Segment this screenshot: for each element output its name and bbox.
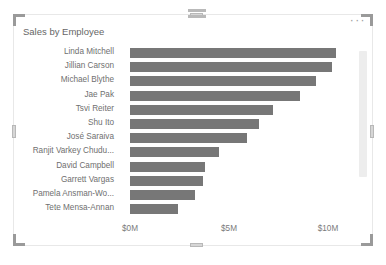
category-label: Jae Pak	[84, 90, 114, 100]
bar[interactable]	[130, 91, 300, 101]
bar[interactable]	[130, 133, 247, 143]
drag-grip-icon[interactable]	[188, 9, 206, 19]
category-label: Ranjit Varkey Chudu...	[33, 146, 114, 156]
bar[interactable]	[130, 76, 316, 86]
resize-handle-right[interactable]	[370, 125, 374, 138]
resize-corner-bottom-right[interactable]	[361, 234, 373, 246]
bar[interactable]	[130, 48, 336, 58]
value-axis: $0M$5M$10M	[118, 220, 358, 242]
category-axis: Linda MitchellJillian CarsonMichael Blyt…	[14, 44, 118, 220]
drag-grip-bar	[188, 15, 206, 18]
bar[interactable]	[130, 62, 332, 72]
category-label: David Campbell	[56, 161, 114, 171]
bar[interactable]	[130, 147, 219, 157]
category-label: José Saraiva	[67, 132, 114, 142]
drag-grip-bar	[188, 9, 206, 12]
bar[interactable]	[130, 204, 178, 214]
vertical-scrollbar-thumb[interactable]	[359, 51, 367, 177]
bar[interactable]	[130, 162, 205, 172]
category-label: Shu Ito	[88, 118, 114, 128]
chart-title: Sales by Employee	[23, 26, 104, 37]
value-axis-tick-label: $10M	[318, 224, 338, 233]
category-label: Tete Mensa-Annan	[45, 203, 114, 213]
resize-corner-top-left[interactable]	[13, 14, 25, 26]
value-axis-tick-label: $0M	[122, 224, 138, 233]
category-label: Tsvi Reiter	[76, 104, 114, 114]
bars-area	[118, 44, 358, 220]
category-label: Jillian Carson	[65, 61, 114, 71]
vertical-scrollbar[interactable]	[359, 51, 367, 191]
category-label: Linda Mitchell	[64, 47, 114, 57]
category-label: Pamela Ansman-Wo...	[33, 189, 114, 199]
value-axis-tick-label: $5M	[221, 224, 237, 233]
chart-visual-container[interactable]: ··· Sales by Employee Linda MitchellJill…	[13, 14, 373, 246]
more-options-icon[interactable]: ···	[346, 16, 366, 28]
category-label: Michael Blythe	[61, 75, 114, 85]
category-label: Garrett Vargas	[61, 175, 114, 185]
bar[interactable]	[130, 105, 273, 115]
bar[interactable]	[130, 119, 259, 129]
plot-area: Linda MitchellJillian CarsonMichael Blyt…	[14, 44, 358, 247]
bar[interactable]	[130, 190, 195, 200]
bar[interactable]	[130, 176, 203, 186]
